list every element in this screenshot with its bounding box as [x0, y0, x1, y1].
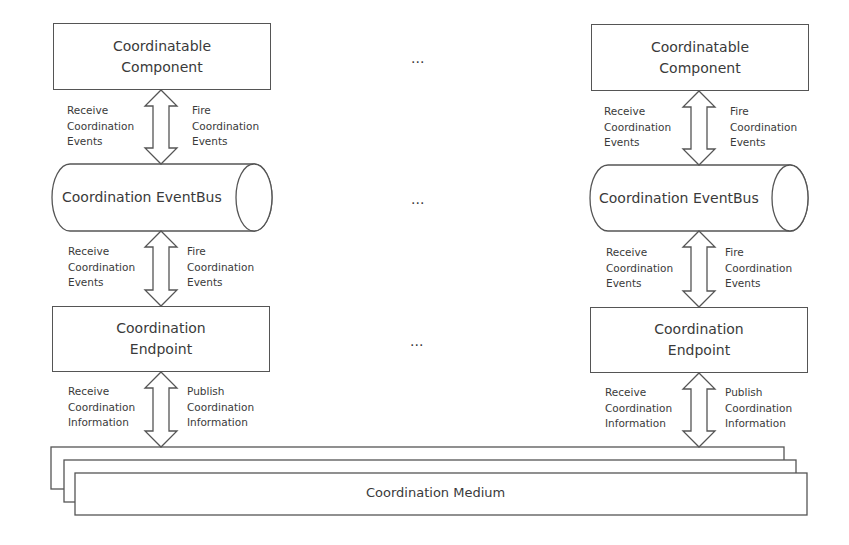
right-arrow1-right-label: FireCoordinationEvents	[730, 104, 797, 151]
left-component-line2: Component	[113, 57, 211, 78]
right-component-line1: Coordinatable	[651, 37, 749, 58]
right-arrow-component-bus-icon	[683, 91, 715, 165]
coordination-medium-label: Coordination Medium	[366, 485, 505, 500]
left-arrow3-left-label: ReceiveCoordinationInformation	[68, 384, 135, 431]
left-arrow-bus-endpoint-icon	[145, 231, 177, 306]
left-coordination-endpoint: CoordinationEndpoint	[52, 306, 270, 372]
right-eventbus-label: Coordination EventBus	[599, 188, 759, 208]
right-arrow1-left-label: ReceiveCoordinationEvents	[604, 104, 671, 151]
left-arrow1-right-label: FireCoordinationEvents	[192, 103, 259, 150]
right-arrow2-right-label: FireCoordinationEvents	[725, 245, 792, 292]
right-arrow3-left-label: ReceiveCoordinationInformation	[605, 385, 672, 432]
left-arrow2-right-label: FireCoordinationEvents	[187, 244, 254, 291]
left-arrow-endpoint-medium-icon	[145, 372, 177, 447]
right-endpoint-line2: Endpoint	[654, 340, 743, 361]
right-arrow-endpoint-medium-icon	[683, 373, 715, 447]
left-eventbus-label: Coordination EventBus	[62, 187, 222, 207]
right-arrow-bus-endpoint-icon	[683, 231, 715, 307]
left-arrow1-left-label: ReceiveCoordinationEvents	[67, 103, 134, 150]
ellipsis-top: ...	[411, 50, 424, 66]
left-endpoint-line1: Coordination	[116, 318, 205, 339]
right-endpoint-line1: Coordination	[654, 319, 743, 340]
right-arrow3-right-label: PublishCoordinationInformation	[725, 385, 792, 432]
right-coordinatable-component: CoordinatableComponent	[591, 24, 809, 91]
left-arrow3-right-label: PublishCoordinationInformation	[187, 384, 254, 431]
ellipsis-bottom: ...	[410, 333, 423, 349]
ellipsis-middle: ...	[411, 191, 424, 207]
left-coordinatable-component: CoordinatableComponent	[53, 23, 271, 90]
left-arrow-component-bus-icon	[145, 90, 177, 164]
left-endpoint-line2: Endpoint	[116, 339, 205, 360]
right-arrow2-left-label: ReceiveCoordinationEvents	[606, 245, 673, 292]
right-component-line2: Component	[651, 58, 749, 79]
left-component-line1: Coordinatable	[113, 36, 211, 57]
right-coordination-endpoint: CoordinationEndpoint	[590, 307, 808, 373]
left-arrow2-left-label: ReceiveCoordinationEvents	[68, 244, 135, 291]
